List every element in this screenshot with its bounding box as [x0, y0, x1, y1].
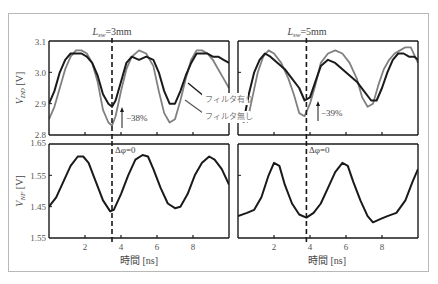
y-axis-title-top: VDD [V] [14, 72, 27, 105]
annotation-left-pct: −38% [120, 107, 148, 128]
y-tick-labels-top: 3.1 3.0 2.9 2.8 [35, 37, 47, 140]
figure: Lsw=3mm Lsw=5mm VDD [V] VNF [V] 3.1 3.0 … [0, 0, 438, 284]
svg-text:1.55: 1.55 [30, 171, 46, 181]
x-axis-title-left: 時間 [ns] [120, 255, 158, 266]
svg-text:2: 2 [83, 242, 88, 252]
svg-text:1.65: 1.65 [30, 138, 46, 148]
legend-without-filter: フィルタ無し [205, 111, 253, 121]
svg-text:3.0: 3.0 [35, 68, 47, 78]
svg-text:2.9: 2.9 [35, 99, 47, 109]
svg-text:4: 4 [308, 242, 313, 252]
plot-panel-top-left [49, 38, 229, 139]
svg-text:8: 8 [380, 242, 385, 252]
legend-leader-without-filter [185, 100, 203, 113]
svg-text:−38%: −38% [126, 113, 148, 123]
annotation-right-phase: Δφ=0 [309, 145, 330, 155]
legend: フィルタ有り フィルタ無し [185, 83, 253, 122]
x-axis-title-right: 時間 [ns] [308, 255, 346, 266]
x-tick-labels-right: 2 4 6 8 [272, 242, 385, 252]
y-tick-labels-bottom: 1.65 1.55 1.45 1.55 [30, 138, 46, 243]
y-axis-title-bottom: VNF [V] [14, 175, 27, 206]
svg-text:4: 4 [119, 242, 124, 252]
svg-text:1.55: 1.55 [30, 233, 46, 243]
svg-text:6: 6 [344, 242, 349, 252]
svg-text:2: 2 [272, 242, 277, 252]
legend-with-filter: フィルタ有り [205, 94, 253, 104]
svg-text:8: 8 [191, 242, 196, 252]
svg-text:1.45: 1.45 [30, 202, 46, 212]
panel-title-right: Lsw=5mm [286, 26, 326, 39]
svg-text:−39%: −39% [321, 108, 343, 118]
series-line [238, 163, 418, 223]
series-line [49, 155, 229, 211]
annotation-left-phase: Δφ=0 [115, 145, 136, 155]
x-tick-labels-left: 2 4 6 8 [83, 242, 196, 252]
svg-text:3.1: 3.1 [35, 37, 46, 47]
plot-panel-bottom-left [49, 141, 229, 242]
annotation-right-pct: −39% [316, 101, 343, 121]
panel-title-left: Lsw=3mm [91, 26, 131, 39]
plot-panel-top-right [238, 38, 418, 139]
plot-panel-bottom-right [238, 141, 418, 242]
svg-text:6: 6 [155, 242, 160, 252]
